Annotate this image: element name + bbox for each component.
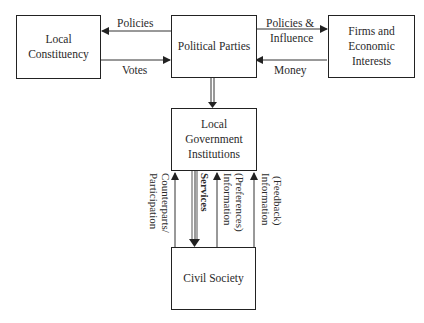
node-label: Political Parties	[178, 39, 251, 54]
services-arrow	[189, 239, 200, 247]
information-preferences-label-2: (Preferences)	[233, 173, 246, 232]
node-label: Government	[185, 132, 242, 147]
policies-label: Policies	[117, 16, 153, 30]
information-feedback-label-2: (Feedback)	[271, 176, 284, 225]
node-label: Interests	[352, 54, 391, 69]
policies-and-label: Policies &	[266, 16, 314, 30]
money-label: Money	[274, 63, 307, 77]
votes-label: Votes	[122, 63, 147, 77]
local-constituency-box: Local Constituency	[16, 15, 101, 79]
node-label: Constituency	[28, 47, 89, 62]
counterparts-label: Counterparts/	[159, 173, 172, 233]
node-label: Local	[201, 117, 227, 132]
node-label: Economic	[348, 39, 395, 54]
node-label: Firms and	[348, 24, 394, 39]
services-label: Services	[198, 173, 211, 211]
local-government-box: Local Government Institutions	[171, 108, 257, 171]
civil-society-box: Civil Society	[171, 247, 256, 310]
firms-economic-interests-box: Firms and Economic Interests	[328, 15, 415, 78]
political-parties-box: Political Parties	[171, 15, 257, 78]
node-label: Institutions	[188, 147, 240, 162]
node-label: Civil Society	[183, 271, 243, 286]
participation-label: Participation	[147, 173, 160, 229]
influence-label: Influence	[270, 31, 313, 45]
node-label: Local	[45, 32, 71, 47]
